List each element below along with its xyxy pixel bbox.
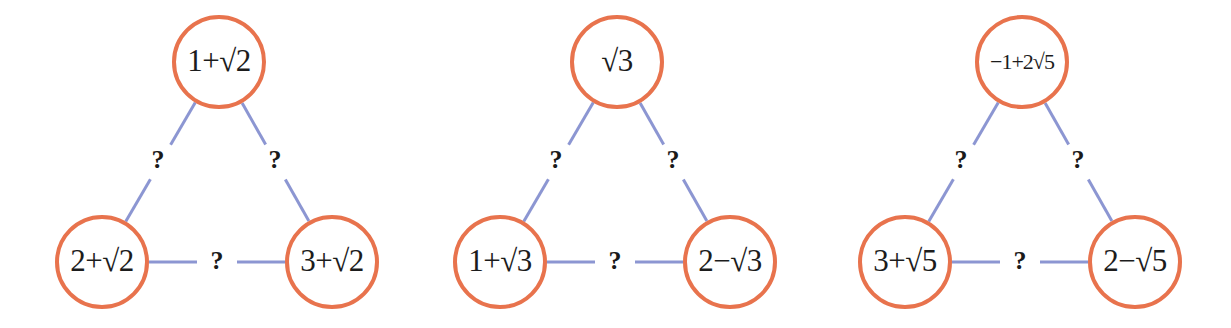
triangle-diagrams-svg: ???1+√22+√23+√2???√31+√32−√3???−1+2√53+√… (0, 0, 1231, 328)
node-top[interactable]: 1+√2 (174, 17, 264, 107)
edge-top-right-segment-b (1088, 179, 1112, 221)
edge-top-right-label: ? (269, 145, 282, 174)
edge-bottom-label: ? (211, 246, 224, 275)
node-bottom-left[interactable]: 2+√2 (57, 217, 147, 307)
node-label-bottom-left: 2+√2 (70, 243, 134, 278)
edge-top-right-segment-b (285, 179, 309, 221)
diagram-canvas: ???1+√22+√23+√2???√31+√32−√3???−1+2√53+√… (0, 0, 1231, 328)
edge-group (929, 103, 1112, 262)
edge-top-right-segment-a (640, 103, 664, 145)
edge-top-left-segment-a (171, 103, 196, 145)
edge-bottom-label: ? (1014, 246, 1027, 275)
node-label-bottom-right: 2−√5 (1103, 243, 1167, 278)
node-label-top: −1+2√5 (990, 49, 1055, 74)
edge-group (524, 103, 707, 262)
node-bottom-right[interactable]: 2−√5 (1090, 217, 1180, 307)
triangle-diagram-3: ???−1+2√53+√52−√5 (860, 17, 1180, 307)
edge-top-right-segment-b (683, 179, 707, 221)
edge-bottom-label: ? (609, 246, 622, 275)
node-bottom-left[interactable]: 3+√5 (860, 217, 950, 307)
triangle-diagram-2: ???√31+√32−√3 (455, 17, 775, 307)
node-label-bottom-right: 3+√2 (300, 243, 364, 278)
node-bottom-left[interactable]: 1+√3 (455, 217, 545, 307)
edge-top-left-segment-b (929, 179, 954, 221)
edge-top-right-label: ? (667, 145, 680, 174)
node-bottom-right[interactable]: 3+√2 (287, 217, 377, 307)
edge-group (126, 103, 309, 262)
node-label-bottom-left: 3+√5 (873, 243, 937, 278)
node-label-bottom-left: 1+√3 (468, 243, 532, 278)
edge-top-left-segment-b (524, 179, 549, 221)
edge-top-right-segment-a (242, 103, 266, 145)
edge-top-left-segment-b (126, 179, 151, 221)
node-label-top: √3 (601, 43, 633, 78)
edge-top-left-label: ? (955, 145, 968, 174)
edge-top-right-segment-a (1045, 103, 1069, 145)
node-bottom-right[interactable]: 2−√3 (685, 217, 775, 307)
edge-top-right-label: ? (1072, 145, 1085, 174)
triangle-diagram-1: ???1+√22+√23+√2 (57, 17, 377, 307)
edge-top-left-label: ? (550, 145, 563, 174)
node-label-top: 1+√2 (187, 43, 251, 78)
node-top[interactable]: √3 (572, 17, 662, 107)
edge-top-left-segment-a (974, 103, 999, 145)
edge-top-left-segment-a (569, 103, 594, 145)
edge-top-left-label: ? (152, 145, 165, 174)
node-label-bottom-right: 2−√3 (698, 243, 762, 278)
node-top[interactable]: −1+2√5 (977, 17, 1067, 107)
